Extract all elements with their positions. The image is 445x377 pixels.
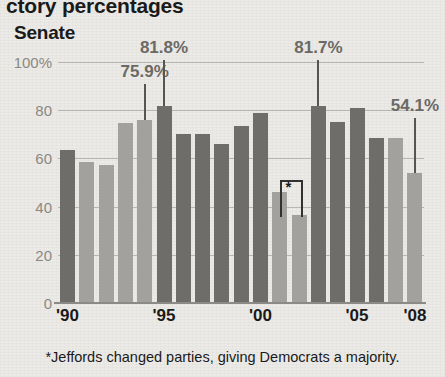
x-tick-label: '00 [249,306,272,326]
bar-90 [60,150,75,303]
bar-05 [350,108,365,303]
bar-92 [99,165,114,303]
bar-07 [388,138,403,303]
callout-label-81.7: 81.7% [294,38,342,58]
x-tick-label: '08 [403,306,426,326]
gridline-100 [58,62,424,63]
chart-footnote: *Jeffords changed parties, giving Democr… [0,349,445,365]
asterisk-icon: * [285,179,291,194]
y-tick-label: 80 [35,102,52,119]
callout-label-75.9: 75.9% [121,62,169,82]
callout-leader-line [144,84,146,120]
callout-leader-line [414,118,416,173]
bar-03 [311,106,326,303]
gridline-80 [58,110,424,111]
bar-02 [292,215,307,303]
bar-99 [234,126,249,303]
chart-plot-area [58,62,424,303]
bar-95 [157,106,172,303]
bar-08 [407,173,422,303]
x-tick-label: '90 [56,306,79,326]
y-tick-label: 60 [35,150,52,167]
y-axis-labels: 020406080100% [0,62,52,303]
bar-91 [79,162,94,303]
bar-04 [330,122,345,303]
callout-label-81.8: 81.8% [140,38,188,58]
x-axis-labels: '90'95'00'05'08 [58,306,424,332]
y-tick-label: 100% [14,54,52,71]
bar-00 [253,113,268,303]
bar-97 [195,134,210,303]
bar-98 [214,144,229,303]
callout-leader-line [163,60,165,106]
x-tick-label: '95 [153,306,176,326]
callout-leader-line [317,60,319,106]
y-tick-label: 20 [35,246,52,263]
x-axis-line [54,302,426,304]
bar-06 [369,138,384,303]
chart-subtitle: Senate [14,22,75,44]
jeffords-bracket [280,180,303,217]
y-tick-label: 40 [35,198,52,215]
bar-93 [118,123,133,303]
bar-96 [176,134,191,303]
page-title: ctory percentages [6,0,184,18]
bar-94 [137,120,152,303]
callout-label-54.1: 54.1% [391,96,439,116]
y-tick-label: 0 [44,295,52,312]
x-tick-label: '05 [346,306,369,326]
